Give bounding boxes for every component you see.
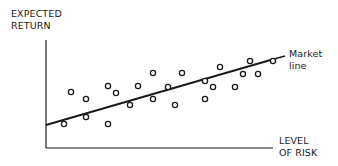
chart-plot-area <box>0 0 338 166</box>
data-point <box>247 58 252 63</box>
data-point <box>202 78 207 83</box>
data-point <box>127 102 132 107</box>
data-point <box>217 64 222 69</box>
data-point <box>83 96 88 101</box>
data-point <box>150 96 155 101</box>
data-point <box>105 121 110 126</box>
data-point <box>165 84 170 89</box>
data-point <box>270 58 275 63</box>
data-point <box>61 121 66 126</box>
data-point <box>83 114 88 119</box>
data-point <box>150 70 155 75</box>
data-point <box>68 89 73 94</box>
data-point <box>113 90 118 95</box>
data-point <box>232 84 237 89</box>
data-point <box>172 102 177 107</box>
data-point <box>202 96 207 101</box>
data-point <box>179 70 184 75</box>
data-point <box>135 83 140 88</box>
market-line-leader <box>274 56 285 59</box>
data-point <box>255 71 260 76</box>
data-point <box>240 71 245 76</box>
data-point <box>210 84 215 89</box>
data-point <box>105 83 110 88</box>
market-line <box>46 59 274 125</box>
